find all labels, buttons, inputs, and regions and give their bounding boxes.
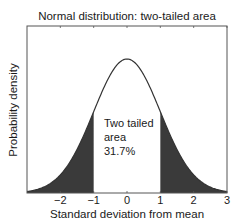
x-tick-label: 0 xyxy=(124,194,130,206)
x-tick-label: 3 xyxy=(224,194,230,206)
annotation-line: 31.7% xyxy=(104,145,135,157)
annotation-line: area xyxy=(104,131,127,143)
annotation-line: Two tailed xyxy=(104,117,154,129)
plot-frame xyxy=(27,26,227,193)
x-axis-tick-labels: −2−10123 xyxy=(54,194,230,206)
left-tail-area xyxy=(27,112,94,193)
x-axis-label: Standard deviation from mean xyxy=(50,208,204,220)
x-tick-label: 2 xyxy=(191,194,197,206)
right-tail-area xyxy=(160,112,227,193)
chart-title: Normal distribution: two-tailed area xyxy=(38,10,216,22)
x-tick-label: −1 xyxy=(87,194,100,206)
x-tick-label: 1 xyxy=(157,194,163,206)
x-tick-label: −2 xyxy=(54,194,67,206)
normal-distribution-chart: Normal distribution: two-tailed area −2−… xyxy=(0,0,242,224)
annotation-two-tailed-area: Two tailedarea31.7% xyxy=(104,117,154,157)
y-axis-label: Probability density xyxy=(7,63,19,157)
